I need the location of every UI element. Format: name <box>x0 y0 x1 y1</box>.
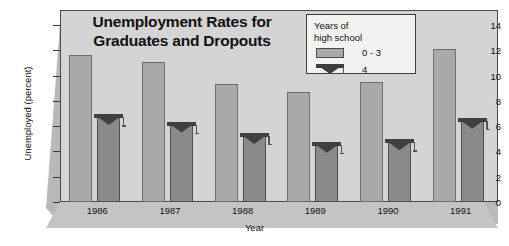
chart-title-line-2: Graduates and Dropouts <box>66 31 298 50</box>
y-tick-label: 4 <box>496 146 501 157</box>
y-tick-label: 10 <box>490 70 501 81</box>
chart-title: Unemployment Rates for Graduates and Dro… <box>66 12 298 50</box>
x-tick-label: 1987 <box>159 205 180 216</box>
legend-item-label: 0 - 3 <box>362 47 381 58</box>
bar-series-0-3 <box>215 84 238 202</box>
y-tick-label: 14 <box>490 20 501 31</box>
x-tick-label: 1986 <box>87 205 108 216</box>
y-tick-mark <box>53 151 60 152</box>
bar-series-4 <box>243 135 266 202</box>
x-tick-label: 1988 <box>232 205 253 216</box>
bar-series-0-3 <box>433 49 456 202</box>
square-swatch-icon <box>316 48 344 58</box>
bar-series-0-3 <box>69 55 92 202</box>
y-tick-mark <box>53 25 60 26</box>
x-tick-label: 1990 <box>377 205 398 216</box>
chart-figure: Unemployment Rates for Graduates and Dro… <box>0 0 509 246</box>
chart-title-line-1: Unemployment Rates for <box>92 13 271 30</box>
y-axis: Unemployed (percent) <box>0 0 60 246</box>
legend-item-label: 4 <box>362 64 367 75</box>
bar-series-4 <box>388 141 411 202</box>
y-tick-mark <box>53 101 60 102</box>
bar-series-0-3 <box>142 62 165 202</box>
y-tick-mark <box>53 50 60 51</box>
y-tick-label: 6 <box>496 121 501 132</box>
bar-series-4 <box>461 120 484 202</box>
y-tick-label: 2 <box>496 171 501 182</box>
y-tick-mark <box>53 76 60 77</box>
y-tick-label: 8 <box>496 95 501 106</box>
bar-series-4 <box>315 144 338 202</box>
legend-item-0-3: 0 - 3 <box>314 46 408 60</box>
y-axis-title: Unemployed (percent) <box>22 39 33 189</box>
y-tick-label: 0 <box>496 197 501 208</box>
legend: Years of high school 0 - 3 4 <box>306 14 416 74</box>
bar-series-0-3 <box>287 92 310 202</box>
bar-series-4 <box>97 116 120 202</box>
x-tick-label: 1991 <box>450 205 471 216</box>
legend-title-line-1: Years of <box>314 20 408 32</box>
legend-title: Years of high school <box>314 20 408 43</box>
y-tick-mark <box>53 177 60 178</box>
x-axis-title: Year <box>0 222 509 233</box>
y-tick-mark <box>53 202 60 203</box>
graduation-cap-icon <box>316 64 344 76</box>
legend-item-4: 4 <box>314 63 408 77</box>
bar-series-0-3 <box>360 82 383 202</box>
y-tick-label: 12 <box>490 45 501 56</box>
bar-series-4 <box>170 124 193 202</box>
y-tick-mark <box>53 126 60 127</box>
legend-title-line-2: high school <box>314 32 408 44</box>
x-tick-label: 1989 <box>305 205 326 216</box>
